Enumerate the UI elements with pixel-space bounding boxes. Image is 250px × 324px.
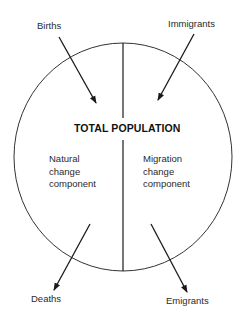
migration-line-1: Migration: [143, 153, 190, 166]
deaths-label: Deaths: [31, 293, 61, 304]
immigrants-arrow-icon: [158, 34, 194, 100]
migration-line-2: change: [143, 166, 190, 179]
births-arrow-icon: [59, 37, 96, 103]
natural-line-3: component: [49, 178, 96, 191]
immigrants-label: Immigrants: [168, 18, 215, 29]
emigrants-label: Emigrants: [166, 295, 209, 306]
emigrants-arrow-icon: [151, 224, 187, 292]
population-diagram: [0, 0, 250, 324]
natural-line-1: Natural: [49, 153, 96, 166]
natural-line-2: change: [49, 166, 96, 179]
births-label: Births: [37, 20, 61, 31]
diagram-title: TOTAL POPULATION: [74, 122, 180, 134]
deaths-arrow-icon: [54, 224, 90, 290]
migration-change-component: Migration change component: [143, 153, 190, 191]
natural-change-component: Natural change component: [49, 153, 96, 191]
migration-line-3: component: [143, 178, 190, 191]
